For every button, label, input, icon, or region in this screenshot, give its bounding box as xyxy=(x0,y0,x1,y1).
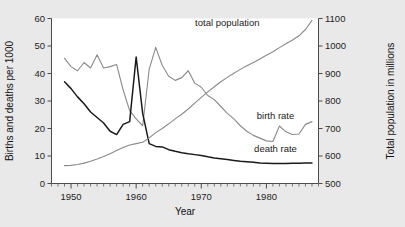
annotation-death-rate: death rate xyxy=(254,143,297,154)
x-axis-title: Year xyxy=(175,206,196,217)
y-axis-left-ticklabel: 40 xyxy=(34,68,45,79)
x-axis-ticklabel: 1960 xyxy=(126,191,147,202)
y-axis-right-ticklabel: 700 xyxy=(325,123,341,134)
y-axis-right-ticklabel: 1100 xyxy=(325,13,345,24)
plot-area-background xyxy=(52,19,319,184)
y-axis-right-ticklabel: 500 xyxy=(325,178,341,189)
y-axis-right-ticklabel: 900 xyxy=(325,68,341,79)
x-axis-ticklabel: 1980 xyxy=(256,191,277,202)
y-axis-left-title: Births and deaths per 1000 xyxy=(4,41,15,162)
y-axis-left-ticklabel: 10 xyxy=(34,150,45,161)
x-axis-ticklabel: 1950 xyxy=(60,191,81,202)
y-axis-left-ticklabel: 30 xyxy=(34,95,45,106)
y-axis-left-ticklabel: 20 xyxy=(34,123,45,134)
y-axis-left-ticklabel: 50 xyxy=(34,40,45,51)
y-axis-left-ticklabel: 60 xyxy=(34,13,45,24)
annotation-birth-rate: birth rate xyxy=(257,110,295,121)
x-axis-ticklabel: 1970 xyxy=(191,191,212,202)
annotation-total-population: total population xyxy=(195,17,259,28)
y-axis-right-ticklabel: 800 xyxy=(325,95,341,106)
chart-figure: 0102030405060500600700800900100011001950… xyxy=(0,0,405,227)
y-axis-left-ticklabel: 0 xyxy=(40,178,45,189)
y-axis-right-ticklabel: 1000 xyxy=(325,40,346,51)
chart-svg: 0102030405060500600700800900100011001950… xyxy=(0,0,405,227)
y-axis-right-title: Total population in millions xyxy=(385,43,396,160)
y-axis-right-ticklabel: 600 xyxy=(325,150,341,161)
